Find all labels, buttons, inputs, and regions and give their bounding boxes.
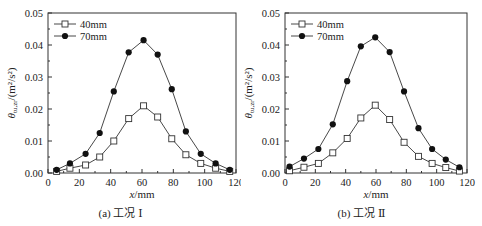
marker-square — [387, 117, 393, 123]
marker-circle — [456, 164, 462, 170]
chart-a-caption: (a) 工况 Ⅰ — [0, 204, 241, 220]
marker-square — [415, 153, 421, 159]
y-tick-label: 0.02 — [25, 104, 43, 115]
marker-circle — [183, 128, 189, 134]
chart-b-svg: 0204060801001200.000.010.020.030.040.05x… — [241, 0, 482, 226]
chart-b-caption: (b) 工况 Ⅱ — [241, 204, 482, 220]
marker-circle — [140, 37, 146, 43]
marker-circle — [286, 164, 292, 170]
y-tick-label: 0.04 — [262, 40, 281, 51]
x-tick-label: 100 — [197, 177, 213, 188]
marker-square — [198, 160, 204, 166]
marker-circle — [198, 151, 204, 157]
marker-square — [126, 116, 132, 122]
marker-circle — [227, 167, 233, 173]
marker-square — [315, 160, 321, 166]
marker-circle — [54, 167, 60, 173]
y-tick-label: 0.03 — [262, 72, 280, 83]
legend-label: 40mm — [80, 19, 107, 30]
marker-circle — [330, 121, 336, 127]
marker-circle — [213, 160, 219, 166]
marker-circle — [387, 49, 393, 55]
marker-square — [330, 150, 336, 156]
y-tick-label: 0.00 — [262, 168, 280, 179]
y-axis-title: θtu,zr/(m²/s²) — [5, 67, 19, 118]
legend-label: 70mm — [80, 31, 107, 42]
marker-square — [344, 135, 350, 141]
y-axis-title: θtu,zr/(m²/s²) — [242, 67, 256, 118]
marker-square — [183, 152, 189, 158]
x-tick-label: 0 — [282, 177, 287, 188]
marker-circle — [344, 78, 350, 84]
marker-square — [358, 115, 364, 121]
y-tick-label: 0.01 — [25, 136, 43, 147]
marker-circle — [415, 125, 421, 131]
x-tick-label: 100 — [429, 177, 445, 188]
x-tick-label: 80 — [401, 177, 412, 188]
marker-square — [401, 139, 407, 145]
marker-square — [372, 102, 378, 108]
marker-square — [443, 165, 449, 171]
marker-circle — [126, 49, 132, 55]
marker-square — [97, 154, 103, 160]
marker-square — [301, 164, 307, 170]
marker-circle — [169, 86, 175, 92]
x-tick-label: 80 — [168, 177, 179, 188]
x-tick-label: 20 — [74, 177, 85, 188]
marker-circle — [67, 160, 73, 166]
x-tick-label: 20 — [310, 177, 321, 188]
legend-label: 40mm — [317, 19, 344, 30]
marker-circle — [358, 43, 364, 49]
legend-label: 70mm — [317, 31, 344, 42]
x-axis-title: x/mm — [362, 188, 389, 200]
x-tick-label: 60 — [137, 177, 148, 188]
chart-panel-a: 0204060801001200.000.010.020.030.040.05x… — [0, 0, 241, 226]
x-tick-label: 120 — [228, 177, 241, 188]
marker-circle — [301, 156, 307, 162]
x-tick-label: 0 — [45, 177, 50, 188]
y-tick-label: 0.05 — [262, 8, 280, 19]
marker-square — [155, 114, 161, 120]
y-tick-label: 0.05 — [25, 8, 43, 19]
chart-panel-b: 0204060801001200.000.010.020.030.040.05x… — [241, 0, 482, 226]
marker-circle — [83, 151, 89, 157]
y-tick-label: 0.04 — [25, 40, 44, 51]
legend-square-icon — [62, 21, 68, 27]
marker-square — [429, 160, 435, 166]
y-tick-label: 0.02 — [262, 104, 280, 115]
marker-square — [169, 136, 175, 142]
marker-circle — [97, 130, 103, 136]
chart-a-svg: 0204060801001200.000.010.020.030.040.05x… — [0, 0, 241, 226]
plot-frame — [48, 13, 236, 173]
marker-circle — [429, 146, 435, 152]
marker-circle — [315, 146, 321, 152]
marker-circle — [372, 34, 378, 40]
marker-circle — [155, 52, 161, 58]
x-tick-label: 40 — [340, 177, 351, 188]
x-tick-label: 60 — [371, 177, 382, 188]
marker-square — [141, 103, 147, 109]
y-tick-label: 0.03 — [25, 72, 43, 83]
y-tick-label: 0.00 — [25, 168, 43, 179]
marker-square — [83, 162, 89, 168]
legend-circle-icon — [299, 33, 305, 39]
marker-circle — [111, 88, 117, 94]
y-tick-label: 0.01 — [262, 136, 280, 147]
legend-square-icon — [299, 21, 305, 27]
marker-circle — [401, 88, 407, 94]
marker-circle — [443, 156, 449, 162]
x-tick-label: 120 — [459, 177, 475, 188]
x-tick-label: 40 — [105, 177, 116, 188]
legend-circle-icon — [62, 33, 68, 39]
marker-square — [111, 138, 117, 144]
x-axis-title: x/mm — [128, 188, 155, 200]
